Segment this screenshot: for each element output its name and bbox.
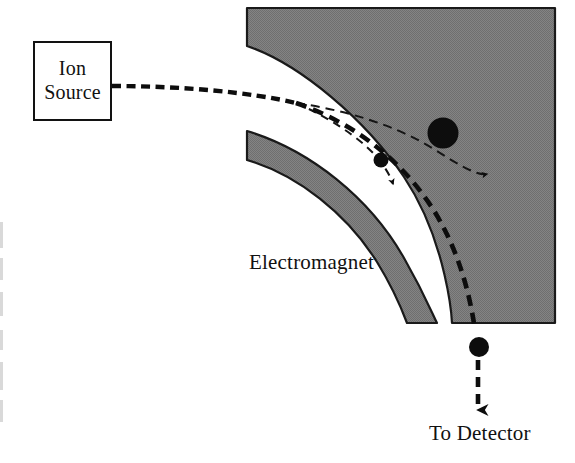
trajectory-beam-entry	[112, 86, 296, 103]
scan-artifact	[0, 400, 3, 422]
to-detector-label: To Detector	[429, 421, 531, 446]
scan-artifact	[0, 292, 3, 316]
mass-spectrometer-diagram: Ion Source Electromagnet To Detector	[0, 0, 575, 463]
ion-marker-small	[374, 153, 389, 168]
ion-source-box: Ion Source	[33, 41, 112, 121]
scan-artifact	[0, 222, 3, 248]
scan-artifact	[0, 330, 3, 350]
ion-source-label-line1: Ion	[59, 57, 86, 81]
scan-artifact	[0, 362, 3, 390]
ion-source-label-line2: Source	[44, 81, 101, 105]
scan-artifact	[0, 258, 3, 280]
ion-marker-detected	[469, 337, 489, 357]
electromagnet-label: Electromagnet	[249, 250, 374, 275]
ion-marker-large	[428, 118, 459, 149]
